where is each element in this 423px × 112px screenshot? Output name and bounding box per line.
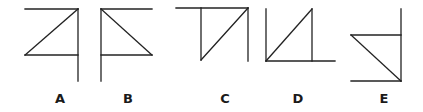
figure-a [25, 9, 78, 81]
figure-b [101, 9, 152, 81]
option-label-e: E [380, 91, 389, 106]
option-label-a: A [55, 91, 65, 106]
figure-d [266, 9, 335, 61]
option-label-d: D [293, 91, 304, 106]
figure-e [351, 9, 401, 81]
option-label-b: B [123, 91, 133, 106]
option-label-c: C [220, 91, 230, 106]
figure-c [176, 8, 248, 61]
